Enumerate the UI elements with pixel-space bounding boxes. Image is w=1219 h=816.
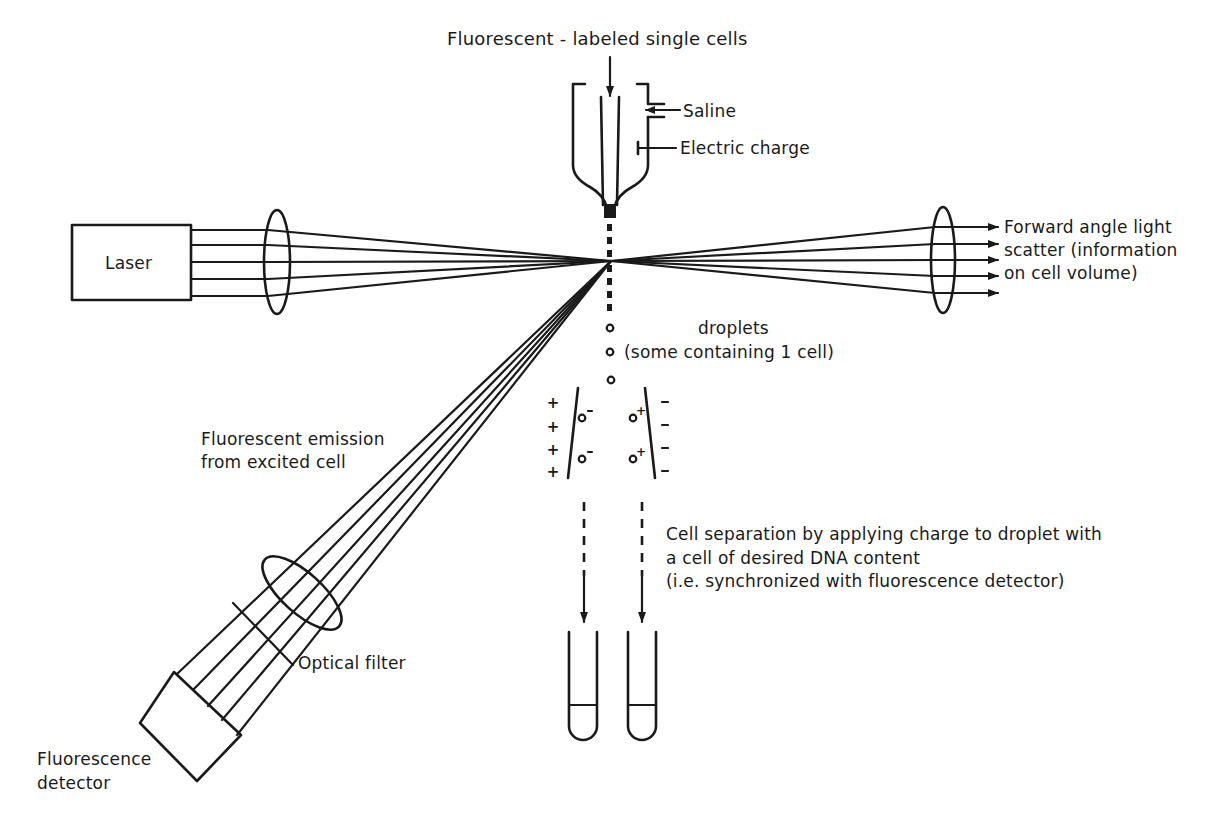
flow-cytometer-diagram: + + + + + + — [0, 0, 1219, 816]
svg-text:+: + — [636, 404, 646, 418]
label-fluorescent-emission-line2: from excited cell — [201, 451, 346, 473]
forward-scatter-beams — [611, 227, 998, 293]
label-cell-separation-line2: a cell of desired DNA content — [666, 547, 920, 569]
label-saline: Saline — [683, 100, 736, 122]
label-electric-charge: Electric charge — [680, 137, 810, 159]
droplet-stream — [607, 224, 615, 383]
positive-droplets-right: + + — [630, 404, 646, 462]
label-droplets-line1: droplets — [698, 317, 769, 339]
nozzle — [573, 84, 664, 218]
svg-text:+: + — [547, 394, 560, 412]
label-forward-scatter-line3: on cell volume) — [1004, 262, 1138, 284]
minus-charges-right — [662, 402, 668, 471]
label-droplets-line2: (some containing 1 cell) — [624, 341, 834, 363]
collection-tube-right — [628, 632, 656, 740]
deflection-plate-left — [568, 388, 578, 478]
label-optical-filter: Optical filter — [298, 652, 406, 674]
fluorescence-detector — [140, 672, 241, 781]
laser-beams — [191, 230, 611, 296]
svg-text:+: + — [547, 463, 560, 481]
optical-filter — [233, 603, 293, 665]
label-fluorescent-emission-line1: Fluorescent emission — [201, 428, 385, 450]
negative-droplets-left — [579, 411, 592, 462]
deflection-plate-right — [645, 388, 655, 478]
label-forward-scatter-line2: scatter (information — [1004, 239, 1178, 261]
label-cell-separation-line1: Cell separation by applying charge to dr… — [666, 523, 1102, 545]
electrode — [638, 142, 676, 154]
label-fluorescence-detector-line2: detector — [37, 772, 110, 794]
svg-text:+: + — [547, 418, 560, 436]
label-cell-separation-line3: (i.e. synchronized with fluorescence det… — [666, 570, 1065, 592]
svg-text:+: + — [547, 441, 560, 459]
label-laser: Laser — [105, 252, 152, 274]
saline-inlet — [645, 106, 680, 114]
plus-charges-left: + + + + — [547, 394, 560, 481]
svg-text:+: + — [636, 445, 646, 459]
label-input-cells: Fluorescent - labeled single cells — [447, 28, 748, 50]
label-fluorescence-detector-line1: Fluorescence — [37, 748, 151, 770]
collection-tube-left — [569, 632, 597, 740]
label-forward-scatter-line1: Forward angle light — [1004, 216, 1172, 238]
